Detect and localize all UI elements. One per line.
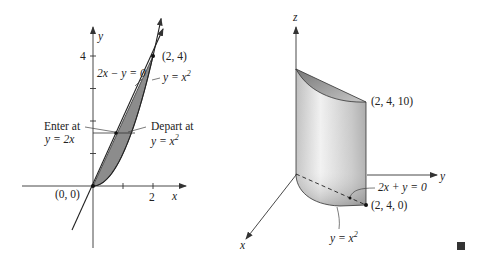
x-tick-label-2: 2 [149,191,155,203]
left-plot: y 4 (2, 4) 2x − y = 0 y = x2 Enter at y … [22,19,194,248]
base-point-label: (2, 4, 0) [371,199,408,212]
y-axis-label-3d: y [439,170,446,183]
curve-label-3d: y = x2 [329,230,358,245]
curve-label: y = x2 [162,69,191,84]
y-axis-label: y [97,30,104,43]
x-axis-label: x [171,190,178,202]
z-axis-label: z [292,11,298,23]
depart-label: Depart at [151,120,194,133]
origin-label: (0, 0) [55,188,80,201]
enter-label: Enter at [44,120,81,132]
point-label-2-4: (2, 4) [162,50,187,63]
x-axis-3d [246,175,296,239]
top-point-label: (2, 4, 10) [371,95,413,108]
point-2-4 [151,54,155,58]
right-plot: z y x (2, 4, 10) 2x + y = 0 (2, 4, 0) y … [239,11,446,251]
end-mark-square [457,242,465,250]
plane-label: 2x + y = 0 [378,181,427,194]
enter-equation: y = 2x [44,133,75,146]
figure: y 4 (2, 4) 2x − y = 0 y = x2 Enter at y … [0,0,477,262]
curve-label-leader-3d [337,207,339,229]
point-2-4-0 [364,203,368,207]
x-axis-label-3d: x [239,239,246,251]
line-label: 2x − y = 0 [97,67,146,80]
origin-point [91,184,95,188]
y-tick-label-4: 4 [80,50,86,62]
enter-leader [85,127,115,132]
curve-label-leader [152,78,160,80]
depart-equation: y = x2 [150,133,179,148]
